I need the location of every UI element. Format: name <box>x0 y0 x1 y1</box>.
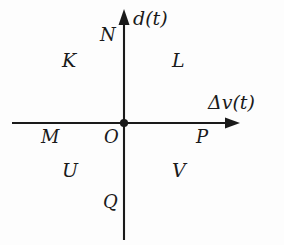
axes-svg <box>0 0 284 245</box>
horizontal-axis-arrowhead <box>225 118 240 129</box>
axis-point-label-p: P <box>196 128 208 146</box>
horizontal-axis-label: Δv(t) <box>208 93 255 112</box>
origin-label: O <box>104 128 119 146</box>
coordinate-diagram: d(t) Δv(t) N M P Q O K L U V <box>0 0 284 245</box>
quadrant-label-upper-left: K <box>62 51 76 70</box>
axis-point-label-m: M <box>41 128 59 146</box>
vertical-axis-label: d(t) <box>133 9 168 28</box>
axis-point-label-q: Q <box>103 193 118 211</box>
vertical-axis-arrowhead <box>119 9 130 25</box>
origin-dot <box>120 119 128 127</box>
quadrant-label-lower-right: V <box>172 161 186 180</box>
quadrant-label-lower-left: U <box>62 161 78 180</box>
quadrant-label-upper-right: L <box>172 51 185 70</box>
axis-point-label-n: N <box>100 26 116 44</box>
